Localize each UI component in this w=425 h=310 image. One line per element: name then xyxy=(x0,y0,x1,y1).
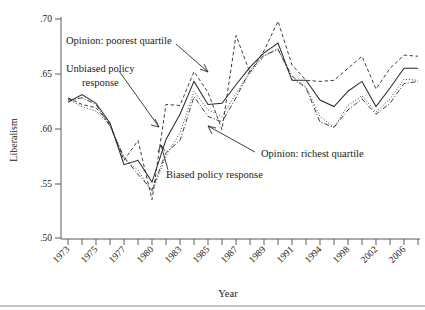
x-tick-label-1977: 1977 xyxy=(107,244,128,265)
annotation-arrows xyxy=(119,44,255,170)
y-tick-label-65: .65 xyxy=(40,69,52,79)
x-tick-marks xyxy=(68,239,418,245)
x-tick-label-1975: 1975 xyxy=(79,244,100,265)
y-tick-label-55: .55 xyxy=(40,179,52,189)
x-tick-labels: 1973 1975 1977 1980 1983 1985 1987 1989 … xyxy=(51,244,408,265)
y-tick-label-60: .60 xyxy=(40,124,52,134)
arrow-richest-quartile xyxy=(208,126,255,152)
x-tick-label-1980: 1980 xyxy=(135,244,156,265)
y-tick-label-50: .50 xyxy=(40,233,52,243)
arrow-biased-policy xyxy=(161,145,168,170)
x-tick-label-1973: 1973 xyxy=(51,244,72,265)
x-tick-label-1983: 1983 xyxy=(163,244,184,265)
annotation-unbiased-line2: response xyxy=(82,77,119,88)
x-tick-label-1998: 1998 xyxy=(331,244,352,265)
annotation-biased-policy: Biased policy response xyxy=(166,169,263,180)
x-tick-label-1994: 1994 xyxy=(303,244,324,265)
chart-canvas: .70 .65 .60 .55 .50 Liberalism xyxy=(0,0,425,310)
x-tick-label-1989: 1989 xyxy=(247,244,268,265)
x-tick-label-1991: 1991 xyxy=(275,244,296,265)
arrow-poorest-quartile xyxy=(176,44,208,72)
chart-figure: .70 .65 .60 .55 .50 Liberalism xyxy=(0,0,425,310)
x-tick-label-2002: 2002 xyxy=(359,244,380,265)
x-tick-label-1987: 1987 xyxy=(219,244,240,265)
x-tick-label-1985: 1985 xyxy=(191,244,212,265)
x-tick-label-2006: 2006 xyxy=(387,244,408,265)
annotation-unbiased-line1: Unbiased policy xyxy=(66,63,135,74)
y-tick-label-70: .70 xyxy=(40,14,52,24)
y-axis-title: Liberalism xyxy=(8,118,19,162)
arrow-unbiased-policy xyxy=(119,71,159,127)
annotation-richest-quartile: Opinion: richest quartile xyxy=(261,148,364,159)
x-axis-title: Year xyxy=(218,288,238,299)
annotation-poorest-quartile: Opinion: poorest quartile xyxy=(66,35,172,46)
y-tick-marks xyxy=(55,19,61,238)
